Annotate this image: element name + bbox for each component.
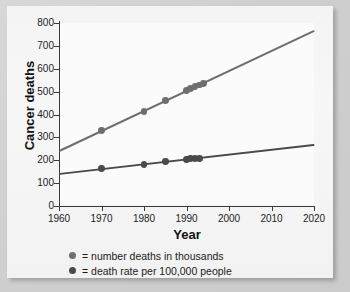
x-axis-tick-label-text: 1960 — [39, 213, 79, 224]
data-point — [98, 165, 105, 172]
y-axis-tick — [54, 69, 59, 70]
legend-label: = number deaths in thousands — [82, 250, 224, 262]
y-axis-tick — [54, 160, 59, 161]
chart-legend: = number deaths in thousands = death rat… — [69, 249, 319, 279]
y-axis-tick-label-text: 800 — [28, 18, 54, 28]
x-axis-tick — [102, 206, 103, 211]
x-axis-tick — [187, 206, 188, 211]
x-axis-tick — [229, 206, 230, 211]
x-axis-tick-label: 1980 — [124, 213, 164, 224]
x-axis-tick-label-text: 1970 — [82, 213, 122, 224]
x-axis-tick-label: 1960 — [39, 213, 79, 224]
y-axis-tick-label: 700 — [21, 41, 54, 51]
data-point — [141, 161, 148, 168]
legend-label: = death rate per 100,000 people — [82, 265, 232, 277]
legend-dot-death-rate — [69, 267, 76, 274]
plot-background — [59, 23, 314, 205]
y-axis-tick-label: 800 — [21, 18, 54, 28]
x-axis-tick-label: 2000 — [209, 213, 249, 224]
x-axis-tick — [314, 206, 315, 211]
y-axis-tick-label-text: 0 — [28, 201, 54, 211]
y-axis-tick-label: 100 — [21, 178, 54, 188]
data-point — [162, 158, 169, 165]
data-point — [98, 127, 105, 134]
y-axis-tick-label: 0 — [21, 201, 54, 211]
x-axis-tick-label-text: 1980 — [124, 213, 164, 224]
screenshot-root: 0100200300400500600700800 19601970198019… — [0, 0, 350, 292]
legend-dot-number-deaths — [69, 252, 76, 259]
x-axis-tick — [144, 206, 145, 211]
data-point — [141, 108, 148, 115]
y-axis-line — [59, 21, 60, 207]
y-axis-tick — [54, 92, 59, 93]
data-point — [162, 97, 169, 104]
y-axis-tick-label-text: 100 — [28, 178, 54, 188]
figure-card: 0100200300400500600700800 19601970198019… — [7, 6, 333, 278]
y-axis-tick — [54, 115, 59, 116]
x-axis-tick-label-text: 2000 — [209, 213, 249, 224]
y-axis-tick — [54, 137, 59, 138]
x-axis-tick-label: 2010 — [252, 213, 292, 224]
y-axis-tick — [54, 183, 59, 184]
y-axis-tick-label-text: 700 — [28, 41, 54, 51]
chart-plot-area: 0100200300400500600700800 19601970198019… — [7, 6, 333, 278]
legend-item: = number deaths in thousands — [69, 249, 319, 262]
x-axis-tick — [59, 206, 60, 211]
x-axis-tick-label-text: 2020 — [294, 213, 334, 224]
data-point — [196, 155, 203, 162]
x-axis-tick-label: 1970 — [82, 213, 122, 224]
y-axis-title: Cancer deaths — [22, 51, 37, 161]
y-axis-tick — [54, 46, 59, 47]
y-axis-tick — [54, 23, 59, 24]
x-axis-title: Year — [59, 227, 315, 242]
x-axis-tick-label: 1990 — [167, 213, 207, 224]
x-axis-tick — [272, 206, 273, 211]
legend-item: = death rate per 100,000 people — [69, 264, 319, 277]
x-axis-tick-label: 2020 — [294, 213, 334, 224]
x-axis-tick-label-text: 2010 — [252, 213, 292, 224]
x-axis-tick-label-text: 1990 — [167, 213, 207, 224]
